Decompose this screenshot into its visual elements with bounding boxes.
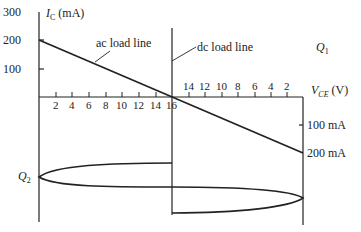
load-line-diagram [0, 0, 361, 232]
vce-axis-label: VCE (V) [311, 84, 348, 99]
x-tick: 10 [116, 100, 127, 111]
right-tick-200ma: 200 mA [307, 147, 346, 159]
ac-load-line-label: ac load line [96, 37, 151, 49]
x-tick: 4 [69, 100, 75, 111]
y-tick-300: 300 [3, 6, 21, 18]
x-tick-right: 6 [252, 81, 258, 92]
y-tick-200: 200 [3, 34, 21, 46]
q1-waveform [172, 187, 303, 213]
x-tick-right: 12 [199, 81, 210, 92]
x-tick: 2 [53, 100, 59, 111]
dc-load-line-label: dc load line [197, 41, 253, 53]
x-tick: 16 [166, 100, 177, 111]
x-tick: 14 [150, 100, 161, 111]
x-tick-right: 10 [216, 81, 227, 92]
ic-axis-label: IC (mA) [46, 7, 84, 22]
x-tick: 8 [103, 100, 109, 111]
x-tick-right: 14 [183, 81, 194, 92]
x-tick-right: 4 [268, 81, 274, 92]
q1-label: Q1 [316, 41, 329, 56]
q2-label: Q2 [18, 170, 31, 185]
x-tick-right: 2 [284, 81, 290, 92]
q2-waveform [39, 163, 172, 187]
x-tick-right: 8 [235, 81, 241, 92]
x-tick: 12 [133, 100, 144, 111]
x-tick: 6 [86, 100, 92, 111]
y-tick-100: 100 [3, 63, 21, 75]
right-tick-100ma: 100 mA [307, 119, 346, 131]
